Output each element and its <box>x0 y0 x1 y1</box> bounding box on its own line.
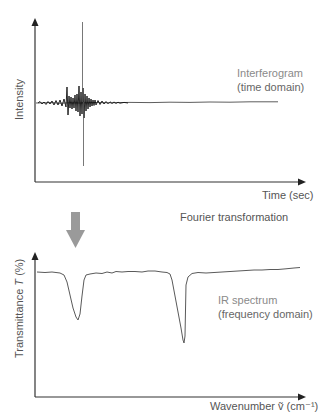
bottom-y-label-prefix: Transmittance <box>13 286 25 358</box>
top-y-axis-label: Intensity <box>14 79 25 120</box>
fourier-transformation-label: Fourier transformation <box>180 212 288 223</box>
top-y-axis <box>32 18 39 182</box>
bottom-x-axis-label: Wavenumber ṽ (cm⁻¹) <box>210 401 318 412</box>
top-x-axis <box>35 179 306 186</box>
bottom-y-axis-label: Transmittance T (%) <box>14 259 25 358</box>
bottom-y-label-suffix: (%) <box>13 259 25 279</box>
interferogram-signal <box>36 22 278 166</box>
fourier-arrow-icon <box>66 212 85 248</box>
bottom-annotation-line2: (frequency domain) <box>218 309 313 320</box>
top-x-axis-label: Time (sec) <box>262 190 314 201</box>
bottom-annotation-line1: IR spectrum <box>218 295 277 306</box>
top-annotation-line1: Interferogram <box>237 68 303 79</box>
top-annotation-line2: (time domain) <box>237 82 304 93</box>
bottom-y-axis <box>32 252 39 397</box>
bottom-y-label-var: T <box>13 279 25 286</box>
